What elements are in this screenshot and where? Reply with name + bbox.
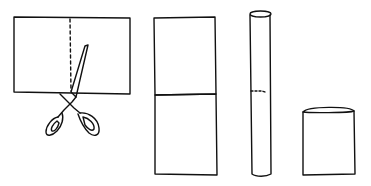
- cut-line: [70, 19, 71, 91]
- paper-sheet: [14, 17, 130, 94]
- illustration: [0, 0, 371, 186]
- upper-half: [154, 17, 216, 95]
- panel-cut-paper: [14, 17, 130, 135]
- scissors-icon: [46, 45, 99, 135]
- tube-body: [250, 15, 271, 176]
- lower-half: [155, 94, 217, 175]
- panel-short-tube: [303, 107, 355, 175]
- panel-two-halves: [154, 17, 217, 175]
- tube-top: [250, 11, 271, 17]
- short-tube-body: [303, 111, 355, 175]
- panel-tall-tube: [250, 11, 271, 176]
- short-tube-top: [303, 107, 354, 112]
- tube-mid-mark: [251, 91, 265, 92]
